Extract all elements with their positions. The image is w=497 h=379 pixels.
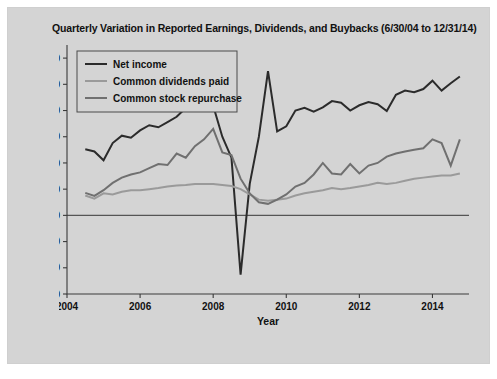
x-tick-label: 2010 (275, 301, 298, 312)
x-tick-label: 2008 (202, 301, 225, 312)
chart-title: Quarterly Variation in Reported Earnings… (52, 22, 472, 34)
y-tick-label: 50.0 (59, 184, 60, 195)
series-line-2 (85, 129, 460, 204)
plot-area: −150.0−100.0−50.0050.0100.0150.0200.0250… (59, 45, 470, 325)
figure-panel: Quarterly Variation in Reported Earnings… (8, 8, 489, 363)
x-tick-label: 2006 (129, 301, 152, 312)
legend-label-1[interactable]: Common dividends paid (113, 76, 229, 87)
line-chart: −150.0−100.0−50.0050.0100.0150.0200.0250… (59, 45, 470, 325)
y-tick-label: 250.0 (59, 79, 60, 90)
y-tick-label: 150.0 (59, 131, 60, 142)
x-axis-title: Year (257, 315, 279, 325)
y-tick-label: −100.0 (59, 262, 60, 273)
chart-legend[interactable]: Net incomeCommon dividends paidCommon st… (77, 51, 242, 112)
legend-label-0[interactable]: Net income (113, 59, 167, 70)
y-tick-label: 100.0 (59, 158, 60, 169)
x-tick-label: 2014 (421, 301, 444, 312)
series-line-1 (85, 173, 460, 200)
y-tick-label: −50.0 (59, 236, 60, 247)
x-tick-label: 2004 (59, 301, 79, 312)
y-tick-label: 300.0 (59, 53, 60, 64)
y-tick-label: 0 (59, 210, 60, 221)
x-axis: 200420062008201020122014Year (59, 294, 444, 325)
y-tick-label: 200.0 (59, 105, 60, 116)
y-axis: −150.0−100.0−50.0050.0100.0150.0200.0250… (59, 53, 67, 300)
x-tick-label: 2012 (348, 301, 371, 312)
y-tick-label: −150.0 (59, 289, 60, 300)
legend-label-2[interactable]: Common stock repurchase (113, 93, 242, 104)
